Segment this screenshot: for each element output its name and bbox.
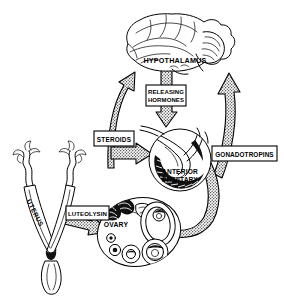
hormonal-feedback-diagram: HYPOTHALAMUS (0, 0, 284, 299)
luteolysin-box[interactable]: LUTEOLYSIN (66, 206, 109, 220)
releasing-hormones-label-line1: RELEASING (148, 89, 184, 95)
steroids-label: STEROIDS (97, 136, 132, 143)
hypothalamus-label: HYPOTHALAMUS (143, 56, 206, 65)
releasing-hormones-box[interactable]: RELEASING HORMONES (146, 85, 186, 106)
anterior-pituitary-label-line2: PITUITARY (162, 176, 198, 183)
anterior-pituitary-label-line1: ANTERIOR (162, 168, 198, 175)
gonadotropins-label: GONADOTROPINS (215, 151, 274, 158)
ovary-label: OVARY (104, 221, 129, 228)
gonadotropins-box[interactable]: GONADOTROPINS (212, 146, 277, 161)
luteolysin-label: LUTEOLYSIN (68, 210, 107, 217)
steroids-box[interactable]: STEROIDS (94, 131, 134, 146)
releasing-hormones-label-line2: HORMONES (148, 97, 184, 103)
